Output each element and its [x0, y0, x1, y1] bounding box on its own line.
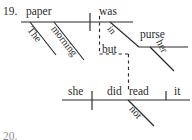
diagram-canvas: 19. paper was purse but she did read it …: [0, 0, 192, 140]
word-read: read: [129, 86, 149, 98]
word-it: it: [174, 86, 180, 98]
word-was: was: [99, 6, 117, 18]
item-number: 19.: [3, 6, 17, 18]
word-did: did: [107, 86, 122, 98]
word-but: but: [102, 44, 117, 56]
word-paper: paper: [26, 6, 52, 18]
sentence-diagram-lines: [0, 0, 192, 140]
next-item-number: 20.: [3, 131, 17, 140]
word-she: she: [68, 86, 83, 98]
